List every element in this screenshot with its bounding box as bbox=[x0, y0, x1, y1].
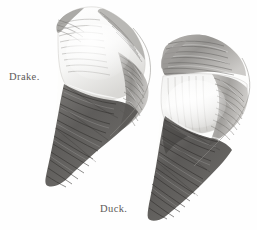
drake-label: Drake. bbox=[9, 71, 40, 82]
duck-covert-highlight bbox=[166, 80, 226, 128]
duck-wing-body bbox=[146, 34, 250, 220]
duck-label: Duck. bbox=[100, 203, 127, 214]
duck-wing-illustration bbox=[0, 0, 257, 230]
illustration-plate: Drake. Duck. bbox=[0, 0, 257, 230]
